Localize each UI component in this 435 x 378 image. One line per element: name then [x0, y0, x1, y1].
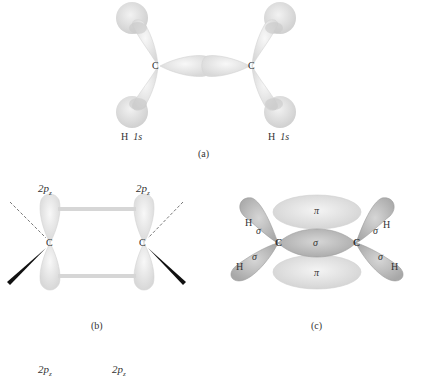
orbital-label: 1s: [133, 131, 142, 142]
panel-b-caption: (b): [91, 321, 103, 331]
orbital-label: 2p: [136, 182, 147, 194]
h-atom-label: H: [268, 131, 275, 142]
panel-a-carbon-right: C: [248, 61, 255, 71]
orbital-subscript: z: [49, 189, 52, 197]
panel-c-sigma-center: σ: [313, 238, 318, 248]
panel-c-h-top-left: H: [245, 218, 252, 228]
panel-b-carbon-left: C: [46, 238, 53, 248]
panel-b-diagram: [7, 194, 186, 290]
panel-c-h-bottom-left: H: [236, 262, 243, 272]
panel-c-carbon-left: C: [275, 238, 282, 248]
orbital-subscript: z: [49, 370, 52, 378]
panel-c-carbon-right: C: [353, 238, 360, 248]
orbital-subscript: z: [147, 189, 150, 197]
orbital-label: 1s: [280, 131, 289, 142]
panel-c-h-top-right: H: [383, 220, 390, 230]
panel-c-pi-top: π: [314, 206, 319, 216]
h-atom-label: H: [121, 131, 128, 142]
panel-c-pi-bottom: π: [314, 268, 319, 278]
panel-c-sigma-bottom-right: σ: [378, 252, 383, 262]
bottom-orbital-left: 2pz: [38, 364, 52, 378]
orbital-label: 2p: [38, 182, 49, 194]
panel-a-caption: (a): [198, 149, 209, 159]
panel-c-sigma-top-right: σ: [373, 226, 378, 236]
panel-a-h-right: H 1s: [268, 132, 289, 142]
panel-a-diagram: [116, 2, 296, 128]
orbital-subscript: z: [123, 370, 126, 378]
panel-c-h-bottom-right: H: [391, 262, 398, 272]
orbital-label: 2p: [38, 363, 49, 375]
panel-a-carbon-left: C: [152, 61, 159, 71]
panel-b-carbon-right: C: [139, 238, 146, 248]
panel-b-orbital-right: 2pz: [136, 183, 150, 197]
panel-c-caption: (c): [311, 321, 322, 331]
panel-c-sigma-bottom-left: σ: [252, 252, 257, 262]
panel-a-h-left: H 1s: [121, 132, 142, 142]
panel-b-orbital-left: 2pz: [38, 183, 52, 197]
bottom-orbital-right: 2pz: [112, 364, 126, 378]
orbital-label: 2p: [112, 363, 123, 375]
panel-c-sigma-top-left: σ: [256, 226, 261, 236]
